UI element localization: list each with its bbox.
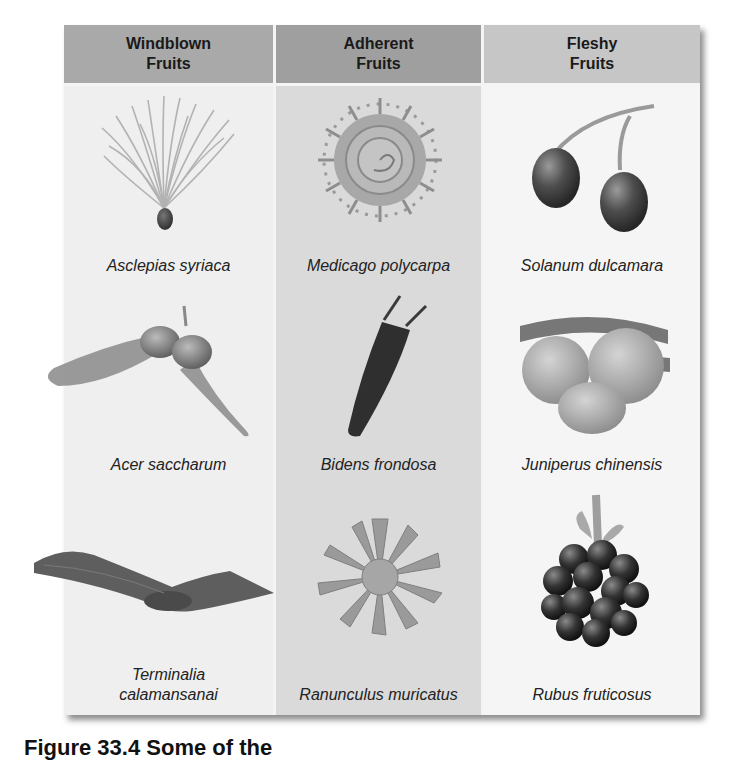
column-adherent: Medicago polycarpa Bidens frondosa <box>276 83 484 715</box>
fruit-cell: Medicago polycarpa <box>276 86 481 286</box>
fruit-cell: Terminalia calamansanai <box>64 485 273 715</box>
header-adherent: AdherentFruits <box>276 25 484 83</box>
species-label-line1: Terminalia <box>119 665 218 685</box>
fruit-cell: Bidens frondosa <box>276 286 481 486</box>
juniper-cone-icon <box>484 286 700 436</box>
species-label: Acer saccharum <box>111 455 227 485</box>
species-label: Solanum dulcamara <box>521 256 663 286</box>
milkweed-seed-icon <box>64 86 276 236</box>
figure-caption: Figure 33.4 Some of the <box>24 735 272 761</box>
header-windblown-line2: Fruits <box>126 54 211 74</box>
header-windblown: WindblownFruits <box>64 25 276 83</box>
berry-pair-icon <box>484 86 700 236</box>
maple-samara-icon <box>64 286 276 436</box>
column-windblown: Asclepias syriaca Acer saccharum <box>64 83 276 715</box>
species-label: Rubus fruticosus <box>532 685 651 715</box>
winged-fruit-icon <box>64 485 276 635</box>
header-adherent-line1: Adherent <box>343 34 413 54</box>
species-label: Asclepias syriaca <box>107 256 231 286</box>
barbed-achene-icon <box>276 286 484 436</box>
spiral-burr-icon <box>276 86 484 236</box>
header-fleshy-line2: Fruits <box>567 54 618 74</box>
blackberry-icon <box>484 485 700 635</box>
fruit-cell: Solanum dulcamara <box>484 86 700 286</box>
header-windblown-line1: Windblown <box>126 34 211 54</box>
fruit-cell: Acer saccharum <box>64 286 273 486</box>
fruit-cell: Ranunculus muricatus <box>276 485 481 715</box>
header-fleshy: FleshyFruits <box>484 25 700 83</box>
header-adherent-line2: Fruits <box>343 54 413 74</box>
fruit-cell: Asclepias syriaca <box>64 86 273 286</box>
fruit-dispersal-table: WindblownFruits AdherentFruits FleshyFru… <box>64 25 700 715</box>
fruit-cell: Juniperus chinensis <box>484 286 700 486</box>
header-fleshy-line1: Fleshy <box>567 34 618 54</box>
fruit-cell: Rubus fruticosus <box>484 485 700 715</box>
species-label: Bidens frondosa <box>321 455 437 485</box>
spiny-achene-cluster-icon <box>276 485 484 635</box>
species-label: Ranunculus muricatus <box>299 685 457 715</box>
species-label-line2: calamansanai <box>119 685 218 705</box>
column-fleshy: Solanum dulcamara Juniperus chinensis <box>484 83 700 715</box>
species-label: Terminalia calamansanai <box>119 665 218 715</box>
species-label: Medicago polycarpa <box>307 256 450 286</box>
species-label: Juniperus chinensis <box>522 455 663 485</box>
